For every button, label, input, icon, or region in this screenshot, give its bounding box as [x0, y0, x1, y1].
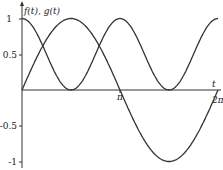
x-axis-label: t [212, 79, 216, 89]
y-tick-label: 1 [6, 14, 12, 24]
y-tick-label: -1 [8, 157, 17, 167]
y-axis-label: f(t), g(t) [23, 6, 61, 16]
y-tick-label: -0.5 [0, 121, 17, 131]
plot-area: 1 0.5 -0.5 -1 π 2π f(t), g(t) t [0, 0, 223, 170]
chart: 1 0.5 -0.5 -1 π 2π f(t), g(t) t [0, 0, 223, 170]
x-tick-label: 2π [211, 95, 223, 105]
y-tick-label: 0.5 [3, 50, 18, 60]
series-g [22, 19, 218, 91]
